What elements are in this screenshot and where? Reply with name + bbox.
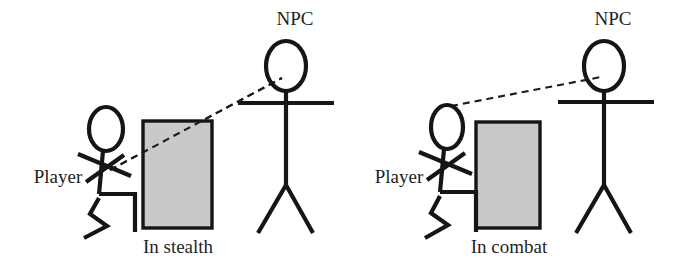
diagram-background (0, 0, 684, 277)
caption-stealth: In stealth (143, 236, 214, 257)
obstacle-rect-combat (476, 122, 540, 228)
player-label-combat: Player (375, 166, 424, 187)
player-label-stealth: Player (34, 166, 83, 187)
npc-label-combat: NPC (595, 8, 632, 29)
caption-combat: In combat (471, 236, 548, 257)
obstacle-rect-stealth (143, 121, 212, 228)
obstacle-stealth (143, 121, 212, 228)
npc-label-stealth: NPC (277, 8, 314, 29)
stealth-combat-diagram: NPC Player (0, 0, 684, 277)
